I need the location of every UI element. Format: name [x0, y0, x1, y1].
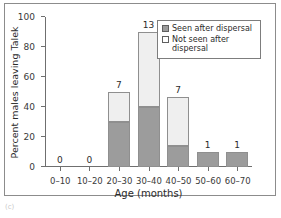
y-tick-label: 80 — [24, 42, 35, 51]
legend-item: Not seen after dispersal — [162, 35, 256, 53]
x-tick-label: 30–40 — [136, 177, 162, 186]
x-tick-label: 60–70 — [225, 177, 251, 186]
x-tick: 0–10 — [60, 167, 61, 171]
bar-group: 1 — [226, 152, 248, 167]
y-tick: 80 — [41, 46, 45, 47]
x-tick-label: 10–20 — [77, 177, 103, 186]
x-tick-label: 50–60 — [195, 177, 221, 186]
bar-value-label: 7 — [175, 86, 181, 95]
x-tick: 50–60 — [208, 167, 209, 171]
bar-segment — [167, 146, 189, 167]
legend-label: Not seen after dispersal — [172, 35, 256, 53]
bar-segment — [138, 107, 160, 167]
bar-value-label: 7 — [116, 81, 122, 90]
bar-value-label: 0 — [86, 156, 92, 165]
y-axis-title-text: Percent males leaving Talek — [10, 26, 21, 158]
x-tick: 40–50 — [178, 167, 179, 171]
x-tick: 10–20 — [89, 167, 90, 171]
x-tick: 30–40 — [149, 167, 150, 171]
figure-container: Percent males leaving Talek 020406080100… — [0, 0, 281, 218]
x-axis-title: Age (months) — [45, 188, 252, 199]
bar-value-label: 1 — [234, 141, 240, 150]
y-tick: 20 — [41, 136, 45, 137]
y-tick: 60 — [41, 76, 45, 77]
legend-label: Seen after dispersal — [172, 24, 252, 33]
bar-segment — [108, 122, 130, 167]
figure-caption-mark: (c) — [5, 203, 14, 211]
bar-value-label: 0 — [57, 156, 63, 165]
y-tick: 100 — [41, 16, 45, 17]
legend-swatch-icon — [162, 36, 169, 43]
x-tick-label: 0–10 — [50, 177, 70, 186]
x-tick-label: 20–30 — [106, 177, 132, 186]
legend-item: Seen after dispersal — [162, 24, 256, 33]
x-tick: 20–30 — [119, 167, 120, 171]
y-tick: 0 — [41, 166, 45, 167]
bar-value-label: 13 — [143, 21, 154, 30]
bar-group: 7 — [108, 92, 130, 167]
bar-group: 1 — [197, 152, 219, 167]
y-tick: 40 — [41, 106, 45, 107]
bar-group: 0 — [78, 166, 100, 167]
y-tick-label: 40 — [24, 102, 35, 111]
y-tick-label: 60 — [24, 72, 35, 81]
legend-swatch-icon — [162, 25, 169, 32]
y-tick-label: 0 — [29, 162, 35, 171]
bar-group: 0 — [49, 166, 71, 167]
y-tick-label: 100 — [18, 12, 35, 21]
bar-group: 7 — [167, 97, 189, 168]
bar-segment — [167, 97, 189, 147]
y-axis-title: Percent males leaving Talek — [8, 17, 22, 167]
bar-value-label: 1 — [205, 141, 211, 150]
x-tick-label: 40–50 — [166, 177, 192, 186]
y-axis-line — [45, 17, 46, 167]
x-tick: 60–70 — [237, 167, 238, 171]
y-tick-label: 20 — [24, 132, 35, 141]
bar-segment — [197, 152, 219, 167]
chart-legend: Seen after dispersalNot seen after dispe… — [157, 20, 261, 59]
bar-segment — [226, 152, 248, 167]
bar-segment — [108, 92, 130, 122]
